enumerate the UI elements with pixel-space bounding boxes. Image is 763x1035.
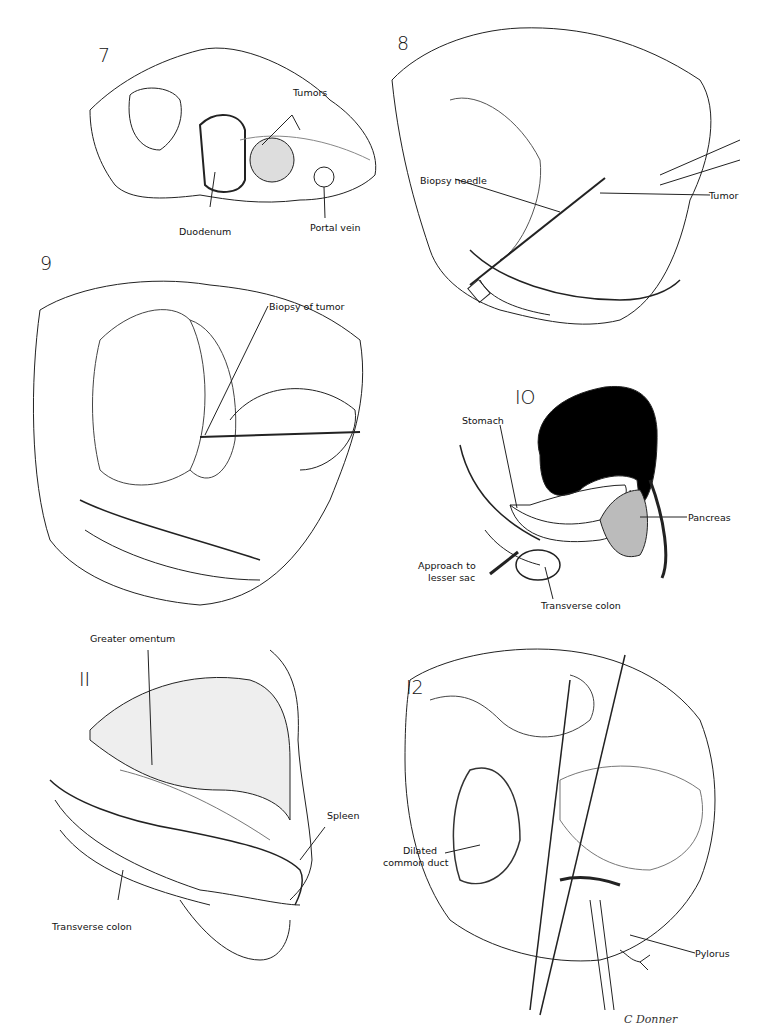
label-transverse-colon: Transverse colon [541,600,621,611]
figure-number-12: I2 [406,676,424,698]
label-pylorus: Pylorus [695,948,730,959]
label-tumor: Tumor [709,190,738,201]
label-dilated-common-duct-line2: common duct [383,857,448,868]
figure-number-9: 9 [40,252,52,274]
figure-number-10: IO [515,386,536,408]
figure-number-11: II [79,668,90,690]
label-approach-to-lesser-sac-line2: lesser sac [428,572,475,583]
label-dilated-common-duct-line1: Dilated [403,845,437,856]
label-biopsy-of-tumor: Biopsy of tumor [269,301,345,312]
figure-12-drawing [405,649,715,1015]
label-spleen: Spleen [327,810,359,821]
label-approach-to-lesser-sac-line1: Approach to [418,560,476,571]
label-transverse-colon: Transverse colon [52,921,132,932]
figure-9-drawing [33,281,362,605]
figure-number-7: 7 [98,44,110,66]
figure-11-drawing [50,650,325,960]
label-portal-vein: Portal vein [310,222,360,233]
label-pancreas: Pancreas [688,512,731,523]
label-tumors: Tumors [293,87,327,98]
label-stomach: Stomach [462,415,504,426]
label-duodenum: Duodenum [179,226,231,237]
illustration-artwork [0,0,763,1035]
artist-signature: C Donner [624,1013,677,1026]
label-biopsy-needle: Biopsy needle [420,175,487,186]
figure-7-drawing [90,48,376,218]
label-greater-omentum: Greater omentum [90,633,175,644]
figure-number-8: 8 [397,32,409,54]
